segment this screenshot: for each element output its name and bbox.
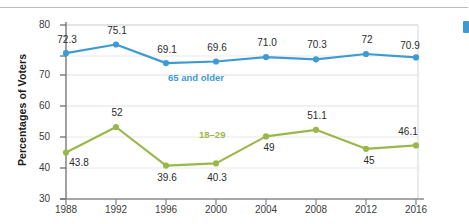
data-point bbox=[163, 60, 169, 66]
data-point bbox=[363, 51, 369, 57]
data-label-older-2012: 72 bbox=[350, 34, 384, 45]
data-label-older-1988: 72.3 bbox=[50, 34, 84, 45]
data-point bbox=[263, 133, 269, 139]
series-annotation-18-29: 18–29 bbox=[199, 129, 225, 140]
data-point bbox=[413, 142, 419, 148]
series-annotation-65-and-older: 65 and older bbox=[168, 72, 224, 83]
data-label-young-2016: 46.1 bbox=[391, 126, 425, 137]
series-65-and-older bbox=[63, 41, 419, 66]
data-label-young-1992: 52 bbox=[100, 107, 134, 118]
data-label-older-2016: 70.9 bbox=[393, 40, 427, 51]
data-point bbox=[63, 149, 69, 155]
data-point bbox=[113, 41, 119, 47]
data-point bbox=[213, 58, 219, 64]
data-point bbox=[213, 160, 219, 166]
data-label-older-2004: 71.0 bbox=[250, 37, 284, 48]
data-point bbox=[363, 146, 369, 152]
data-label-young-2012: 45 bbox=[352, 155, 386, 166]
data-label-young-1996: 39.6 bbox=[150, 172, 184, 183]
data-point bbox=[313, 56, 319, 62]
data-label-older-2000: 69.6 bbox=[200, 42, 234, 53]
data-point bbox=[263, 54, 269, 60]
data-point bbox=[63, 50, 69, 56]
data-label-older-1992: 75.1 bbox=[100, 25, 134, 36]
data-label-older-2008: 70.3 bbox=[300, 39, 334, 50]
data-label-young-2004: 49 bbox=[252, 142, 286, 153]
data-label-young-2008: 51.1 bbox=[300, 110, 334, 121]
data-label-older-1996: 69.1 bbox=[150, 44, 184, 55]
data-label-young-2000: 40.3 bbox=[200, 172, 234, 183]
data-point bbox=[313, 127, 319, 133]
data-point bbox=[113, 124, 119, 130]
x-axis-ticks bbox=[66, 199, 416, 205]
data-point bbox=[163, 163, 169, 169]
data-point bbox=[413, 54, 419, 60]
data-label-young-1988: 43.8 bbox=[62, 157, 96, 168]
